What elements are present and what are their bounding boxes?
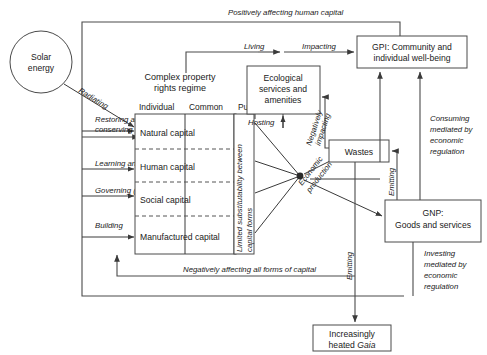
capital-human-label: Human capital [140, 162, 195, 172]
ecological-services-label-line2: services and [259, 84, 307, 94]
gaia-label-heated: heated [329, 340, 358, 350]
gaia-label-line2: heated Gaia [329, 340, 376, 350]
column-header-individual: Individual [139, 102, 175, 112]
substitutability-label-line1: Limited substitutability between [235, 144, 244, 252]
edge-label-investing-line4: regulation [424, 282, 458, 291]
substitutability-label-line2: capital forms [245, 208, 254, 252]
edge-label-impacting: Impacting [302, 42, 336, 51]
edge-label-living: Living [244, 42, 265, 51]
edge-label-investing-line1: Investing [424, 249, 456, 258]
capital-manufactured-label: Manufactured capital [140, 232, 220, 242]
solar-energy-label-line1: Solar [31, 52, 51, 62]
column-header-common: Common [189, 102, 223, 112]
gaia-label-gaia: Gaia [357, 340, 375, 350]
gnp-label-line2: Goods and services [395, 220, 471, 230]
edge-label-emitting-gaia: Emitting [345, 251, 354, 280]
edge-label-restoring-line2: conserving [95, 125, 133, 134]
solar-energy-node [10, 31, 72, 93]
edge-label-consuming-line3: economic [430, 136, 463, 145]
edge-label-consuming-line4: regulation [430, 147, 464, 156]
edge-label-building: Building [95, 221, 123, 230]
regime-title-line1: Complex property [144, 72, 216, 82]
diagram-canvas: Solar energy Radiating Restoring and con… [0, 0, 487, 355]
edge-label-consuming-line2: mediated by [430, 125, 474, 134]
edge-label-hosting: Hosting [248, 118, 275, 127]
capital-natural-label: Natural capital [140, 128, 195, 138]
edge-label-consuming-line1: Consuming [430, 114, 470, 123]
capital-social-label: Social capital [140, 195, 191, 205]
gpi-box [357, 36, 467, 68]
edge-label-negatively-affecting: Negatively affecting all forms of capita… [183, 265, 316, 274]
edge-production-to-gnp [304, 180, 382, 216]
edge-label-positively-affecting: Positively affecting human capital [228, 8, 344, 17]
wastes-label: Wastes [345, 147, 373, 157]
regime-title-line2: rights regime [154, 83, 206, 93]
gnp-label-line1: GNP: [422, 208, 443, 218]
gpi-label-line1: GPI: Community and [372, 42, 452, 52]
ecological-services-label-line3: amenities [265, 95, 302, 105]
solar-energy-label-line2: energy [28, 63, 55, 73]
edge-label-investing-line2: mediated by [424, 260, 468, 269]
diagram-svg: Solar energy Radiating Restoring and con… [0, 0, 487, 355]
edge-label-investing-line3: economic [424, 271, 457, 280]
edge-label-emitting-wastes: Emitting [387, 167, 396, 196]
gaia-label-line1: Increasingly [329, 329, 376, 339]
gpi-label-line2: individual well-being [374, 53, 451, 63]
ecological-services-label-line1: Ecological [263, 73, 302, 83]
